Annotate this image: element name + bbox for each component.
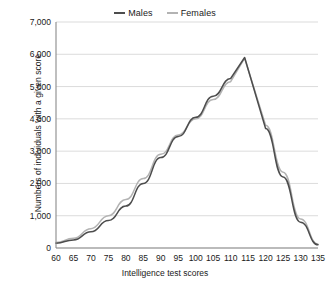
y-axis-tick-labels: 01,0002,0003,0004,0005,0006,0007,000 [30,17,52,253]
y-tick-label: 5,000 [30,82,52,92]
x-tick-label: 75 [104,253,114,263]
x-tick-label: 65 [69,253,79,263]
plot-area: 01,0002,0003,0004,0005,0006,0007,000 606… [0,0,330,288]
x-tick-label: 85 [139,253,149,263]
x-tick-label: 90 [156,253,166,263]
x-tick-label: 100 [189,253,203,263]
x-tick-label: 130 [293,253,307,263]
x-tick-label: 115 [241,253,255,263]
x-tick-label: 110 [224,253,238,263]
x-axis-tick-labels: 6065707580859095100105110115120125130135 [51,253,325,263]
x-tick-label: 60 [51,253,61,263]
x-tick-label: 70 [86,253,96,263]
x-tick-label: 120 [259,253,273,263]
y-tick-label: 3,000 [30,146,52,156]
y-tick-label: 2,000 [30,178,52,188]
y-tick-label: 7,000 [30,17,52,27]
x-tick-label: 80 [121,253,131,263]
x-axis-title: Intelligence test scores [0,268,330,278]
y-tick-label: 6,000 [30,49,52,59]
x-tick-label: 135 [311,253,325,263]
y-tick-label: 0 [46,243,51,253]
y-tick-label: 1,000 [30,211,52,221]
x-tick-label: 105 [206,253,220,263]
plot-svg: 01,0002,0003,0004,0005,0006,0007,000 606… [0,0,330,288]
x-tick-label: 95 [174,253,184,263]
iq-distribution-chart: Males Females Numbers of individuals wit… [0,0,330,288]
y-tick-label: 4,000 [30,114,52,124]
x-tick-label: 125 [276,253,290,263]
gridlines [56,22,318,248]
